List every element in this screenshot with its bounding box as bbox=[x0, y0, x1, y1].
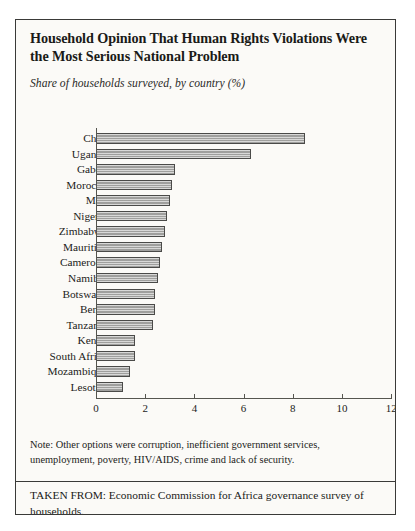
x-axis bbox=[96, 398, 392, 399]
bar bbox=[96, 304, 155, 315]
bar-row: Uganda bbox=[16, 148, 396, 161]
bar bbox=[96, 335, 135, 346]
figure-note: Note: Other options were corruption, ine… bbox=[30, 438, 385, 468]
bar bbox=[96, 164, 175, 175]
bar-row: Mali bbox=[16, 194, 396, 207]
bar bbox=[96, 149, 251, 160]
bar-category-label: Nigeria bbox=[15, 210, 107, 223]
bar bbox=[96, 366, 130, 377]
figure-card: Household Opinion That Human Rights Viol… bbox=[15, 19, 396, 515]
bar-category-label: Kenya bbox=[15, 334, 107, 347]
bar-category-label: Tanzania bbox=[15, 319, 107, 332]
x-axis-tick bbox=[145, 394, 146, 398]
x-axis-tick bbox=[342, 394, 343, 398]
bar-row: Tanzania bbox=[16, 319, 396, 332]
figure-source: TAKEN FROM: Economic Commission for Afri… bbox=[30, 488, 385, 515]
x-axis-tick bbox=[391, 394, 392, 398]
note-block: Note: Other options were corruption, ine… bbox=[30, 438, 385, 468]
bar bbox=[96, 242, 162, 253]
bar-category-label: South Africa bbox=[15, 350, 107, 363]
bar-category-label: Morocco bbox=[15, 179, 107, 192]
bar-row: Namibia bbox=[16, 272, 396, 285]
bar-category-label: Cameroon bbox=[15, 256, 107, 269]
bar-row: Benin bbox=[16, 303, 396, 316]
bar-row: Morocco bbox=[16, 179, 396, 192]
bar-category-label: Gabon bbox=[15, 163, 107, 176]
bar-row: South Africa bbox=[16, 350, 396, 363]
bar bbox=[96, 273, 158, 284]
source-block: TAKEN FROM: Economic Commission for Afri… bbox=[30, 488, 385, 515]
bar-category-label: Namibia bbox=[15, 272, 107, 285]
x-axis-tick-label: 2 bbox=[132, 402, 158, 414]
x-axis-tick-label: 10 bbox=[329, 402, 355, 414]
bar-row: Zimbabwe bbox=[16, 225, 396, 238]
x-axis-tick bbox=[293, 394, 294, 398]
bar bbox=[96, 257, 160, 268]
bar-row: Gabon bbox=[16, 163, 396, 176]
plot-inner: ChadUgandaGabonMoroccoMaliNigeriaZimbabw… bbox=[16, 128, 396, 433]
bar-row: Kenya bbox=[16, 334, 396, 347]
figure-title: Household Opinion That Human Rights Viol… bbox=[30, 30, 381, 66]
bar-chart: ChadUgandaGabonMoroccoMaliNigeriaZimbabw… bbox=[16, 128, 396, 433]
bar-category-label: Botswana bbox=[15, 288, 107, 301]
title-block: Household Opinion That Human Rights Viol… bbox=[16, 20, 395, 90]
bar-category-label: Zimbabwe bbox=[15, 225, 107, 238]
bar-row: Botswana bbox=[16, 288, 396, 301]
bar-row: Chad bbox=[16, 132, 396, 145]
bar-row: Nigeria bbox=[16, 210, 396, 223]
bar-category-label: Lesotho bbox=[15, 381, 107, 394]
bar bbox=[96, 211, 167, 222]
bar-category-label: Mali bbox=[15, 194, 107, 207]
bar bbox=[96, 180, 172, 191]
bar-category-label: Benin bbox=[15, 303, 107, 316]
bar-category-label: Mozambique bbox=[15, 365, 107, 378]
bar bbox=[96, 382, 123, 393]
bar-category-label: Mauritius bbox=[15, 241, 107, 254]
figure-subtitle: Share of households surveyed, by country… bbox=[30, 77, 381, 90]
bar bbox=[96, 226, 165, 237]
bar-category-label: Chad bbox=[15, 132, 107, 145]
bar bbox=[96, 320, 153, 331]
bar bbox=[96, 289, 155, 300]
y-axis bbox=[96, 128, 97, 397]
bar-row: Cameroon bbox=[16, 256, 396, 269]
bar bbox=[96, 351, 135, 362]
x-axis-tick bbox=[194, 394, 195, 398]
x-axis-tick bbox=[96, 394, 97, 398]
x-axis-tick-label: 6 bbox=[231, 402, 257, 414]
x-axis-tick-label: 0 bbox=[83, 402, 109, 414]
x-axis-tick-label: 12 bbox=[378, 402, 396, 414]
x-axis-tick-label: 4 bbox=[181, 402, 207, 414]
x-axis-tick-label: 8 bbox=[280, 402, 306, 414]
bar-row: Lesotho bbox=[16, 381, 396, 394]
x-axis-tick bbox=[244, 394, 245, 398]
bar bbox=[96, 133, 305, 144]
bar bbox=[96, 195, 170, 206]
bar-category-label: Uganda bbox=[15, 148, 107, 161]
bar-row: Mozambique bbox=[16, 365, 396, 378]
bar-row: Mauritius bbox=[16, 241, 396, 254]
note-divider bbox=[16, 481, 396, 482]
